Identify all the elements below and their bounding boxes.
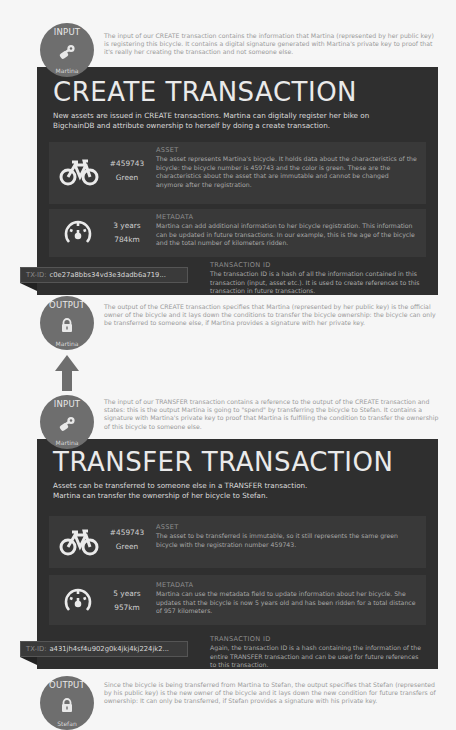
tag-fold xyxy=(20,657,37,665)
tx-id-value: c0e27a8bbs34vd3e3dadb6a719... xyxy=(49,271,165,279)
transfer-input-badge: INPUT Martina xyxy=(40,395,94,449)
create-input-badge: INPUT Martina xyxy=(40,23,94,77)
metadata-text: Martina can use the metadata field to up… xyxy=(156,590,418,616)
tx-heading: TRANSACTION ID xyxy=(210,261,271,269)
output-label: OUTPUT xyxy=(49,680,85,690)
asset-text: The asset to be transferred is immutable… xyxy=(156,532,418,549)
tx-text: Again, the transaction ID is a hash cont… xyxy=(210,644,422,670)
asset-color: Green xyxy=(104,173,150,182)
create-title: CREATE TRANSACTION xyxy=(53,77,357,107)
transfer-subtitle-line1: Assets can be transferred to someone els… xyxy=(53,481,383,491)
asset-text: The asset represents Martina's bicycle. … xyxy=(156,155,418,189)
speedometer-icon xyxy=(63,585,93,619)
metadata-heading: METADATA xyxy=(156,213,193,221)
tx-text: The transaction ID is a hash of all the … xyxy=(210,270,422,296)
transfer-output-text: Since the bicycle is being transferred f… xyxy=(104,681,439,706)
transfer-output-badge: OUTPUT Stefan xyxy=(40,676,94,730)
keys-icon xyxy=(57,44,77,60)
metadata-km: 784km xyxy=(104,235,150,244)
metadata-text: Martina can add additional information t… xyxy=(156,222,418,248)
output-owner: Martina xyxy=(56,340,79,347)
lock-icon xyxy=(60,318,74,332)
speedometer-icon xyxy=(63,217,93,251)
metadata-age: 3 years xyxy=(104,221,150,230)
input-owner: Martina xyxy=(56,67,79,74)
create-tx-id-tag[interactable]: TX-ID:c0e27a8bbs34vd3e3dadb6a719... xyxy=(20,267,188,283)
keys-icon xyxy=(57,416,77,432)
transfer-metadata-row: 5 years 957km METADATA Martina can use t… xyxy=(49,575,426,625)
asset-color: Green xyxy=(104,542,150,551)
asset-heading: ASSET xyxy=(156,523,179,531)
arrow-up-icon xyxy=(55,355,79,395)
metadata-km: 957km xyxy=(104,603,150,612)
metadata-age: 5 years xyxy=(104,589,150,598)
tx-id-value: a431jh4sf4u902g0k4jkj4kj224jk2... xyxy=(49,645,169,653)
asset-number: #459743 xyxy=(104,159,150,168)
create-output-text: The output of the CREATE transaction spe… xyxy=(104,303,439,328)
create-subtitle: New assets are issued in CREATE transact… xyxy=(53,111,383,131)
create-asset-row: #459743 Green ASSET The asset represents… xyxy=(49,142,426,204)
transfer-title: TRANSFER TRANSACTION xyxy=(53,447,393,477)
bicycle-icon xyxy=(59,528,99,560)
bicycle-icon xyxy=(59,158,99,190)
input-label: INPUT xyxy=(54,27,80,37)
output-label: OUTPUT xyxy=(49,300,85,310)
transfer-input-text: The input of our TRANSFER transaction co… xyxy=(104,398,439,431)
transfer-asset-row: #459743 Green ASSET The asset to be tran… xyxy=(49,516,426,568)
input-owner: Martina xyxy=(56,439,79,446)
tag-fold xyxy=(20,283,37,291)
tx-id-prefix: TX-ID: xyxy=(26,271,46,279)
transfer-transaction-panel: TRANSFER TRANSACTION Assets can be trans… xyxy=(37,439,438,669)
create-input-text: The input of our CREATE transaction cont… xyxy=(104,32,439,57)
tx-id-prefix: TX-ID: xyxy=(26,645,46,653)
lock-icon xyxy=(60,698,74,712)
metadata-heading: METADATA xyxy=(156,581,193,589)
transfer-subtitle-line2: Martina can transfer the ownership of he… xyxy=(53,491,383,501)
tx-heading: TRANSACTION ID xyxy=(210,635,271,643)
input-label: INPUT xyxy=(54,399,80,409)
transfer-tx-id-tag[interactable]: TX-ID:a431jh4sf4u902g0k4jkj4kj224jk2... xyxy=(20,641,188,657)
create-metadata-row: 3 years 784km METADATA Martina can add a… xyxy=(49,209,426,257)
asset-heading: ASSET xyxy=(156,146,179,154)
asset-number: #459743 xyxy=(104,528,150,537)
create-output-badge: OUTPUT Martina xyxy=(40,296,94,350)
output-owner: Stefan xyxy=(57,720,76,727)
create-transaction-panel: CREATE TRANSACTION New assets are issued… xyxy=(37,67,438,295)
